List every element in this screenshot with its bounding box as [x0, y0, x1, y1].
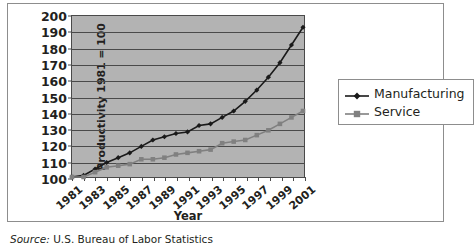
y-tick-label: 180: [41, 41, 67, 56]
legend-item-manufacturing[interactable]: Manufacturing: [344, 84, 465, 102]
y-tick-label: 160: [41, 74, 67, 89]
x-axis-title: Year: [71, 209, 305, 223]
series-layer: [72, 16, 304, 177]
data-point-marker: [151, 157, 156, 162]
x-tick-mark: [189, 177, 190, 181]
source-text: U.S. Bureau of Labor Statistics: [53, 233, 213, 245]
data-point-marker: [93, 170, 98, 175]
x-tick-mark: [119, 177, 120, 181]
x-tick-mark: [177, 177, 178, 181]
y-tick-label: 110: [41, 155, 67, 170]
source-note: Source: U.S. Bureau of Labor Statistics: [10, 233, 213, 245]
plot-area: Productivity 1981 = 100 1001101201301401…: [71, 15, 305, 178]
x-tick-mark: [200, 177, 201, 181]
data-point-marker: [243, 138, 248, 143]
data-point-marker: [70, 175, 75, 180]
x-tick-mark: [293, 177, 294, 181]
y-tick-label: 190: [41, 25, 67, 40]
data-point-marker: [255, 133, 260, 138]
data-point-marker: [173, 131, 178, 136]
data-point-marker: [127, 162, 132, 167]
legend-label: Service: [374, 104, 420, 119]
legend-item-service[interactable]: Service: [344, 102, 465, 120]
data-point-marker: [104, 165, 109, 170]
x-tick-mark: [247, 177, 248, 181]
x-tick-mark: [130, 177, 131, 181]
y-tick-label: 200: [41, 9, 67, 24]
x-tick-mark: [107, 177, 108, 181]
data-point-marker: [116, 163, 121, 168]
x-tick-mark: [142, 177, 143, 181]
x-tick-mark: [165, 177, 166, 181]
x-tick-mark: [258, 177, 259, 181]
data-point-marker: [220, 141, 225, 146]
data-point-marker: [81, 175, 86, 180]
legend-marker-diamond-icon: [344, 87, 370, 99]
data-point-marker: [289, 115, 294, 120]
data-point-marker: [197, 149, 202, 154]
data-point-marker: [266, 128, 271, 133]
y-tick-label: 170: [41, 57, 67, 72]
data-point-marker: [174, 152, 179, 157]
data-point-marker: [139, 157, 144, 162]
x-tick-mark: [95, 177, 96, 181]
data-point-marker: [162, 134, 167, 139]
y-tick-label: 130: [41, 123, 67, 138]
data-point-marker: [116, 155, 121, 160]
x-tick-mark: [235, 177, 236, 181]
chart-figure-frame: Productivity 1981 = 100 1001101201301401…: [7, 3, 444, 222]
data-point-marker: [185, 151, 190, 156]
data-point-marker: [301, 109, 306, 114]
x-tick-mark: [270, 177, 271, 181]
x-tick-mark: [223, 177, 224, 181]
legend-marker-square-icon: [344, 105, 370, 117]
legend-label: Manufacturing: [374, 86, 465, 101]
y-tick-label: 100: [41, 172, 67, 187]
y-tick-label: 150: [41, 90, 67, 105]
data-point-marker: [162, 155, 167, 160]
source-label: Source:: [10, 233, 50, 245]
x-tick-mark: [282, 177, 283, 181]
x-tick-mark: [305, 177, 306, 181]
chart-legend: ManufacturingService: [338, 79, 474, 125]
x-tick-mark: [212, 177, 213, 181]
x-tick-mark: [154, 177, 155, 181]
y-tick-label: 120: [41, 139, 67, 154]
y-tick-label: 140: [41, 106, 67, 121]
data-point-marker: [278, 122, 283, 127]
data-point-marker: [208, 147, 213, 152]
data-point-marker: [231, 139, 236, 144]
